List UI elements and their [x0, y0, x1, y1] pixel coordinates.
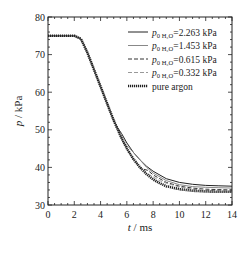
y-tick-label: 50	[35, 124, 45, 135]
x-tick-label: 14	[227, 209, 237, 220]
y-tick-label: 60	[35, 87, 45, 98]
x-tick-label: 0	[46, 209, 51, 220]
x-tick-label: 12	[201, 209, 211, 220]
legend-label: p0 H₂O=0.332 kPa	[151, 68, 217, 79]
legend-label: p0 H₂O=0.615 kPa	[151, 55, 217, 66]
y-axis-label: p / kPa	[12, 96, 24, 128]
line-chart: 02468101214304050607080 p0 H₂O=2.263 kPa…	[0, 0, 247, 253]
x-tick-label: 6	[124, 209, 129, 220]
y-tick-label: 40	[35, 162, 45, 173]
legend-label: p0 H₂O=1.453 kPa	[151, 41, 217, 52]
x-tick-label: 2	[72, 209, 77, 220]
y-tick-label: 80	[35, 12, 45, 23]
x-axis-label: t / ms	[128, 221, 152, 233]
y-tick-label: 30	[35, 200, 45, 211]
x-tick-label: 8	[151, 209, 156, 220]
x-tick-label: 10	[174, 209, 184, 220]
x-tick-label: 4	[98, 209, 103, 220]
legend-label: p0 H₂O=2.263 kPa	[151, 28, 217, 39]
y-tick-label: 70	[35, 49, 45, 60]
legend-label: pure argon	[152, 82, 193, 92]
legend: p0 H₂O=2.263 kPap0 H₂O=1.453 kPap0 H₂O=0…	[128, 28, 217, 92]
